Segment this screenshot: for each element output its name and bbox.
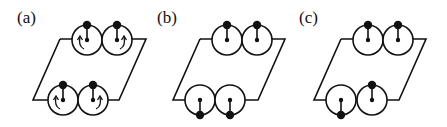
mass-dot bbox=[253, 21, 261, 29]
pivot-dot bbox=[396, 38, 400, 42]
mass-dot bbox=[364, 21, 372, 29]
panel-c: (c) bbox=[299, 8, 426, 119]
rotor-circle bbox=[48, 81, 78, 115]
rotor-circle bbox=[212, 21, 242, 55]
panel-label: (b) bbox=[157, 8, 177, 27]
rotor-circle bbox=[326, 85, 356, 119]
mass-dot bbox=[226, 111, 234, 119]
pivot-dot bbox=[115, 38, 119, 42]
mass-dot bbox=[83, 21, 91, 29]
pivot-dot bbox=[198, 98, 202, 102]
rotor-circle bbox=[353, 21, 383, 55]
mass-dot bbox=[368, 81, 376, 89]
panel-a: (a) bbox=[17, 8, 146, 115]
pivot-dot bbox=[91, 98, 95, 102]
figure-canvas: (a)(b)(c) bbox=[0, 0, 447, 127]
mass-dot bbox=[394, 21, 402, 29]
panel-label: (c) bbox=[299, 8, 318, 27]
pivot-dot bbox=[366, 38, 370, 42]
pivot-dot bbox=[61, 98, 65, 102]
rotor-circle bbox=[383, 21, 413, 55]
rotor-circle bbox=[72, 21, 102, 55]
rotor-circle bbox=[242, 21, 272, 55]
panel-b: (b) bbox=[157, 8, 285, 119]
mass-dot bbox=[89, 81, 97, 89]
rotor-circle bbox=[215, 85, 245, 119]
pivot-dot bbox=[225, 38, 229, 42]
pivot-dot bbox=[255, 38, 259, 42]
pivot-dot bbox=[370, 98, 374, 102]
panel-label: (a) bbox=[17, 8, 36, 27]
rotor-circle bbox=[185, 85, 215, 119]
pivot-dot bbox=[85, 38, 89, 42]
rotor-circle bbox=[102, 21, 132, 55]
pivot-dot bbox=[339, 98, 343, 102]
rotor-circle bbox=[357, 81, 387, 115]
mass-dot bbox=[59, 81, 67, 89]
mass-dot bbox=[196, 111, 204, 119]
mass-dot bbox=[337, 111, 345, 119]
mass-dot bbox=[223, 21, 231, 29]
pivot-dot bbox=[228, 98, 232, 102]
mass-dot bbox=[113, 21, 121, 29]
rotor-circle bbox=[78, 81, 108, 115]
